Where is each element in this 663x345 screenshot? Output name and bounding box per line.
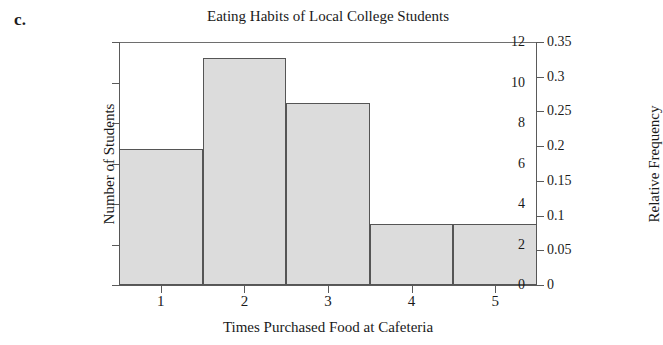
y-axis-right-tick-label: 0.25 [547, 104, 572, 118]
x-axis-tick [328, 285, 329, 293]
y-axis-right-tick-label: 0.3 [547, 70, 565, 84]
chart-title: Eating Habits of Local College Students [119, 8, 537, 25]
y-axis-left-tick [112, 42, 119, 43]
y-axis-right-tick-label: 0.2 [547, 139, 565, 153]
y-axis-right-tick-label: 0.1 [547, 209, 565, 223]
x-axis-tick-label: 1 [157, 294, 165, 309]
x-axis-tick [161, 285, 162, 293]
y-axis-left-tick [112, 245, 119, 246]
y-axis-left-tick-label: 4 [518, 197, 525, 211]
histogram-bar [453, 224, 537, 285]
histogram-bar [119, 149, 203, 285]
y-axis-left-tick [112, 83, 119, 84]
y-axis-right-tick [537, 77, 544, 78]
y-axis-right-title: Relative Frequency [646, 105, 663, 222]
x-axis-tick [244, 285, 245, 293]
y-axis-right-tick [537, 42, 544, 43]
x-axis-tick [412, 285, 413, 293]
y-axis-right-tick-label: 0.05 [547, 243, 572, 257]
panel-letter: c. [14, 10, 26, 30]
y-axis-left-tick-label: 6 [518, 157, 525, 171]
plot-area: 024681012 00.050.10.150.20.250.30.35 123… [119, 42, 537, 285]
y-axis-left-tick-label: 8 [518, 116, 525, 130]
y-axis-right-tick-label: 0 [547, 278, 554, 292]
x-axis-tick [495, 285, 496, 293]
y-axis-right-tick-label: 0.15 [547, 174, 572, 188]
histogram-bar [370, 224, 454, 285]
y-axis-right-tick [537, 285, 544, 286]
y-axis-left-tick-label: 10 [511, 76, 525, 90]
y-axis-left-tick-label: 0 [518, 278, 525, 292]
y-axis-left-tick-label: 12 [511, 35, 525, 49]
y-axis-right-tick [537, 146, 544, 147]
y-axis-left-title: Number of Students [101, 103, 118, 224]
x-axis-tick-label: 4 [408, 294, 416, 309]
x-axis-tick-label: 2 [241, 294, 249, 309]
y-axis-left-tick-label: 2 [518, 238, 525, 252]
x-axis-tick-label: 5 [491, 294, 499, 309]
x-axis-tick-label: 3 [324, 294, 332, 309]
y-axis-right-tick [537, 111, 544, 112]
y-axis-left-tick [112, 285, 119, 286]
x-axis-title: Times Purchased Food at Cafeteria [119, 319, 537, 336]
y-axis-right-tick [537, 216, 544, 217]
plot-top-border [119, 42, 537, 43]
histogram-bar [203, 58, 287, 285]
y-axis-right-tick-label: 0.35 [547, 35, 572, 49]
y-axis-right-tick [537, 181, 544, 182]
histogram-bar [286, 103, 370, 285]
y-axis-right-tick [537, 250, 544, 251]
